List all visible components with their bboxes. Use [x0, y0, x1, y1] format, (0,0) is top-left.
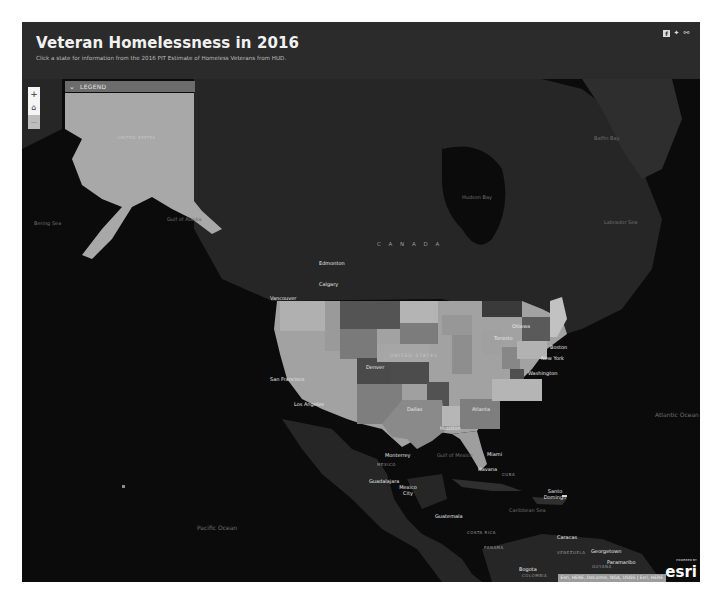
label-mexico: MEXICO: [377, 462, 396, 467]
label-pacific-ocean: Pacific Ocean: [197, 524, 237, 531]
label-venezuela: VENEZUELA: [557, 550, 586, 555]
label-dallas: Dallas: [407, 406, 422, 412]
label-edmonton: Edmonton: [319, 260, 345, 266]
label-san-francisco: San Francisco: [270, 376, 304, 382]
label-guadalajara: Guadalajara: [369, 478, 399, 484]
label-mexico-city: Mexico City: [397, 484, 419, 496]
powered-by-label: POWERED BY: [665, 558, 697, 562]
zoom-out-button[interactable]: −: [28, 115, 40, 129]
label-hudson-bay: Hudson Bay: [462, 194, 492, 200]
label-houston: Houston: [440, 425, 461, 431]
label-atlanta: Atlanta: [472, 406, 490, 412]
facebook-icon[interactable]: f: [663, 30, 670, 37]
label-los-angeles: Los Angeles: [294, 401, 324, 407]
map-view[interactable]: ⌄ LEGEND + ⌂ − Bering Sea Gulf of Alaska…: [22, 79, 700, 582]
label-boston: Boston: [550, 344, 567, 350]
map-app: Veteran Homelessness in 2016 Click a sta…: [22, 22, 700, 582]
zoom-controls: + ⌂ −: [28, 87, 40, 129]
zoom-in-button[interactable]: +: [28, 87, 40, 101]
label-georgetown: Georgetown: [591, 548, 622, 554]
label-canada: C A N A D A: [377, 241, 442, 247]
label-baffin-bay: Baffin Bay: [594, 135, 620, 141]
label-denver: Denver: [366, 364, 384, 370]
label-cuba: CUBA: [502, 472, 515, 477]
label-united-states: UNITED STATES: [390, 353, 438, 358]
label-washington: Washington: [528, 370, 557, 376]
label-gulf-of-alaska: Gulf of Alaska: [167, 216, 202, 222]
legend-label: LEGEND: [80, 83, 106, 90]
label-alaska-us: UNITED STATES: [118, 135, 156, 140]
label-gulf-of-mexico: Gulf of Mexico: [437, 452, 473, 458]
basemap: [22, 79, 700, 582]
label-bogota: Bogota: [519, 566, 537, 572]
label-ottawa: Ottawa: [512, 323, 530, 329]
label-guatemala: Guatemala: [435, 513, 463, 519]
label-havana: Havana: [478, 466, 497, 472]
esri-logo-text: esri: [665, 563, 697, 581]
chevron-down-icon: ⌄: [69, 83, 77, 91]
label-panama: PANAMA: [484, 545, 504, 550]
label-vancouver: Vancouver: [270, 295, 296, 301]
label-atlantic-ocean: Atlantic Ocean: [655, 411, 699, 418]
label-paramaribo: Paramaribo: [607, 559, 636, 565]
legend-toggle[interactable]: ⌄ LEGEND: [65, 81, 195, 92]
label-labrador-sea: Labrador Sea: [604, 219, 637, 225]
social-share: f ✦ ⚯: [663, 30, 690, 37]
label-caribbean-sea: Caribbean Sea: [509, 507, 546, 513]
label-santo-domingo: Santo Domingo: [540, 488, 570, 500]
header: Veteran Homelessness in 2016 Click a sta…: [22, 22, 700, 79]
map-attribution[interactable]: Esri, HERE, DeLorme, NGA, USGS | Esri, H…: [558, 574, 666, 582]
link-icon[interactable]: ⚯: [683, 30, 690, 37]
page-title: Veteran Homelessness in 2016: [36, 34, 299, 52]
label-new-york: New York: [541, 355, 564, 361]
label-calgary: Calgary: [319, 281, 338, 287]
label-miami: Miami: [487, 451, 502, 457]
home-button[interactable]: ⌂: [28, 101, 40, 115]
twitter-icon[interactable]: ✦: [673, 30, 680, 37]
label-monterrey: Monterrey: [385, 452, 411, 458]
label-bering-sea: Bering Sea: [34, 220, 61, 226]
page-subtitle: Click a state for information from the 2…: [36, 55, 286, 61]
label-colombia: COLOMBIA: [522, 573, 547, 578]
label-caracas: Caracas: [557, 534, 577, 540]
label-toronto: Toronto: [494, 335, 512, 341]
esri-logo[interactable]: POWERED BY esri: [665, 558, 697, 581]
label-costa-rica: COSTA RICA: [467, 530, 496, 535]
